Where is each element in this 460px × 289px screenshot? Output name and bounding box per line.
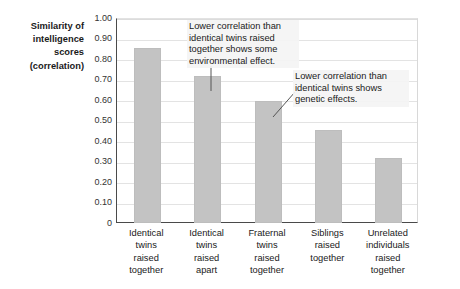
annotation-genetic-effects: Lower correlation than identical twins s…: [293, 70, 409, 107]
x-tick-label: Unrelated individuals raised together: [358, 227, 418, 276]
annotation-environmental-effect: Lower correlation than identical twins r…: [187, 20, 299, 68]
bar-chart-figure: Similarity of intelligence scores (corre…: [0, 0, 460, 289]
x-tick-label: Fraternal twins raised together: [237, 227, 297, 276]
x-tick-label: Identical twins raised apart: [176, 227, 236, 276]
x-tick-label: Identical twins raised together: [116, 227, 176, 276]
leader-line-diagonal: [273, 92, 295, 117]
x-tick-label: Siblings raised together: [297, 227, 357, 264]
x-axis-category-labels: Identical twins raised togetherIdentical…: [116, 227, 418, 287]
